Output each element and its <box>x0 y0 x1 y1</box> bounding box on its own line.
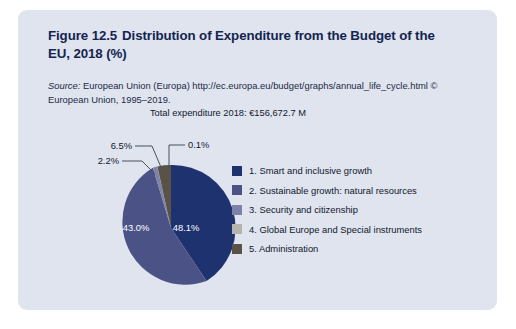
legend-item-administration: 5. Administration <box>232 239 482 259</box>
legend-swatch-5 <box>232 244 242 254</box>
legend-item-security-and-citizenship: 3. Security and citizenship <box>232 200 482 220</box>
legend-label-2: 2. Sustainable growth: natural resources <box>249 185 417 196</box>
pie-value-label-1: 48.1% <box>173 222 200 233</box>
chart-title: Total expenditure 2018: €156,672.7 M <box>78 108 378 118</box>
legend-swatch-4 <box>232 224 242 234</box>
legend-item-smart-and-inclusive-growth: 1. Smart and inclusive growth <box>232 161 482 181</box>
pie-value-label-2: 43.0% <box>123 222 150 233</box>
legend-label-5: 5. Administration <box>249 243 318 254</box>
leader-line-global-europe <box>169 145 185 168</box>
legend-swatch-3 <box>232 205 242 215</box>
legend-label-1: 1. Smart and inclusive growth <box>249 165 372 176</box>
chart-legend: 1. Smart and inclusive growth 2. Sustain… <box>232 161 482 259</box>
legend-item-sustainable-growth: 2. Sustainable growth: natural resources <box>232 181 482 201</box>
pie-graphic: 48.1% 43.0% 6.5% 2.2% 0.1% <box>90 128 240 293</box>
figure-card: Figure 12.5Distribution of Expenditure f… <box>18 10 497 310</box>
pie-value-label-3: 2.2% <box>98 155 119 166</box>
legend-label-4: 4. Global Europe and Special instruments <box>249 224 422 235</box>
pie-chart: Total expenditure 2018: €156,672.7 M 48.… <box>18 10 497 310</box>
legend-item-global-europe: 4. Global Europe and Special instruments <box>232 220 482 240</box>
legend-label-3: 3. Security and citizenship <box>249 204 358 215</box>
legend-swatch-1 <box>232 166 242 176</box>
pie-value-label-4: 0.1% <box>188 139 209 150</box>
pie-value-label-5: 6.5% <box>111 140 132 151</box>
legend-swatch-2 <box>232 185 242 195</box>
